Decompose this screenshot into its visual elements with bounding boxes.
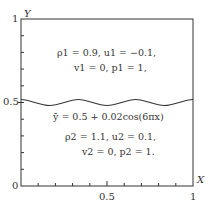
y-tick-0.5: 0.5 xyxy=(3,97,19,107)
y-tick-0: 0 xyxy=(12,181,18,191)
interface-equation: ȳ = 0.5 + 0.02cos(6πx) xyxy=(53,112,164,122)
y-tick-1: 1 xyxy=(12,14,18,24)
x-axis-ticks xyxy=(38,181,176,186)
domain-box xyxy=(21,19,193,186)
y-axis-label: Y xyxy=(24,9,31,19)
interface-curve xyxy=(21,100,193,106)
x-tick-0.5: 0.5 xyxy=(99,192,115,202)
lower-region-params-line1: ρ2 = 1.1, u2 = 0.1, xyxy=(65,132,156,142)
upper-region-params-line1: ρ1 = 0.9, u1 = −0.1, xyxy=(57,48,156,58)
x-axis-label: X xyxy=(197,175,204,185)
upper-region-params-line2: v1 = 0, p1 = 1, xyxy=(74,63,147,73)
diagram-canvas xyxy=(0,0,211,204)
lower-region-params-line2: v2 = 0, p2 = 1. xyxy=(82,147,155,157)
x-tick-1: 1 xyxy=(190,192,196,202)
